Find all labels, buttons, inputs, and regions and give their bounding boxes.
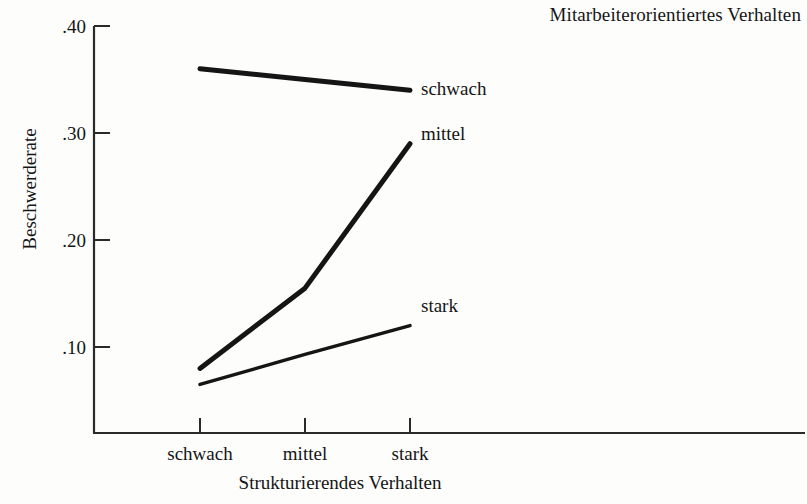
chart-figure: Mitarbeiterorientiertes Verhalten Beschw… [0, 0, 807, 504]
series-line-stark [200, 326, 410, 385]
plot-area [0, 0, 807, 504]
series-line-schwach [200, 69, 410, 90]
